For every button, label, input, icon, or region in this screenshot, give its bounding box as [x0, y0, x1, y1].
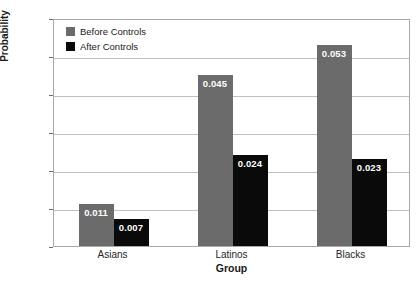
- legend: Before Controls After Controls: [66, 25, 146, 55]
- legend-label-before-controls: Before Controls: [80, 26, 146, 37]
- gridline: [54, 58, 409, 59]
- legend-swatch-icon-after-controls: [66, 42, 75, 51]
- bar-latinos-after-controls: 0.024: [233, 155, 268, 246]
- y-axis-tick-mark: [49, 247, 53, 248]
- bar-value-label: 0.053: [317, 48, 352, 59]
- x-axis-label-blacks: Blacks: [336, 249, 365, 260]
- legend-swatch-icon-before-controls: [66, 27, 75, 36]
- bar-value-label: 0.023: [352, 162, 387, 173]
- bar-blacks-after-controls: 0.023: [352, 159, 387, 246]
- bar-value-label: 0.011: [79, 207, 114, 218]
- bar-value-label: 0.024: [233, 158, 268, 169]
- bar-asians-after-controls: 0.007: [114, 219, 149, 246]
- bar-blacks-before-controls: 0.053: [317, 45, 352, 246]
- bar-asians-before-controls: 0.011: [79, 204, 114, 246]
- bar-value-label: 0.045: [198, 78, 233, 89]
- legend-item-before-controls: Before Controls: [66, 25, 146, 38]
- plot-area: 0.0110.0070.0450.0240.0530.023 Before Co…: [53, 19, 410, 247]
- bar-value-label: 0.007: [114, 222, 149, 233]
- legend-item-after-controls: After Controls: [66, 40, 146, 53]
- y-axis-title: Probability: [0, 0, 10, 96]
- legend-label-after-controls: After Controls: [80, 41, 138, 52]
- x-axis-label-asians: Asians: [97, 249, 127, 260]
- bar-chart: Probability 00.010.020.030.040.050.06 0.…: [0, 0, 417, 281]
- x-axis-title: Group: [53, 262, 410, 274]
- bar-latinos-before-controls: 0.045: [198, 75, 233, 246]
- x-axis-label-latinos: Latinos: [215, 249, 247, 260]
